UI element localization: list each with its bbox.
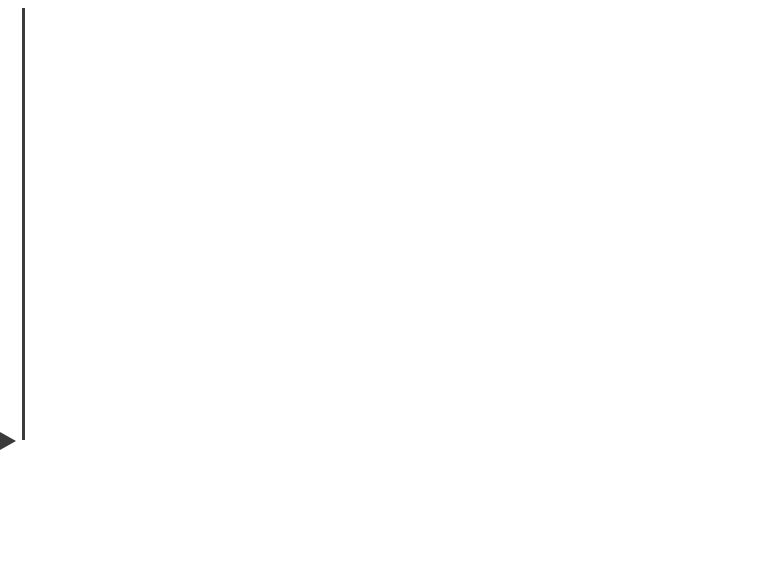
- x-axis-arrow-icon: [0, 432, 16, 450]
- technology-readiness-timeline-chart: [0, 0, 780, 563]
- y-axis-line: [22, 8, 25, 440]
